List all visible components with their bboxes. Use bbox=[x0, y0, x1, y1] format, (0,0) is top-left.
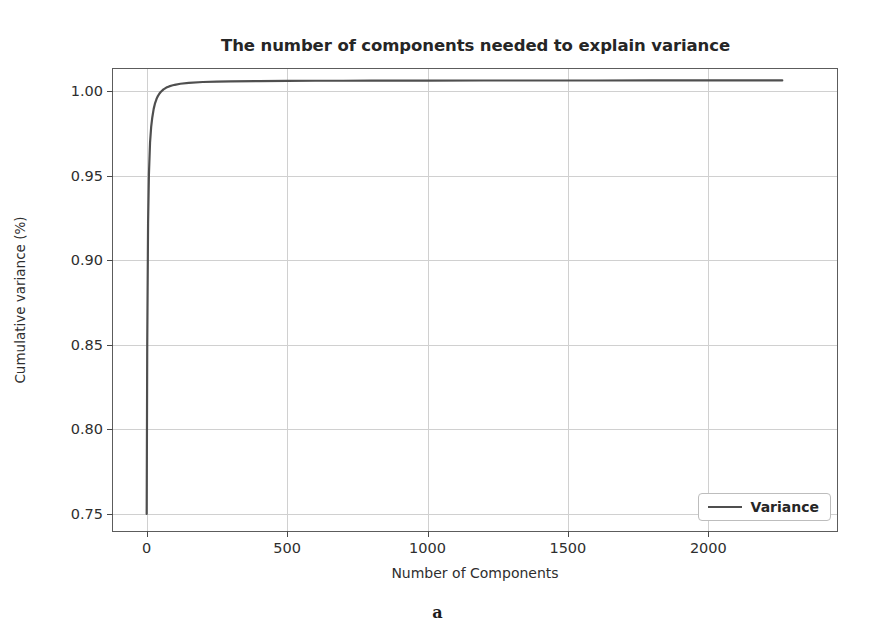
y-tick-label: 0.75 bbox=[71, 506, 103, 522]
y-axis-label: Cumulative variance (%) bbox=[12, 216, 28, 383]
figure-caption: a bbox=[0, 603, 875, 622]
legend-line-icon bbox=[708, 506, 742, 508]
x-tick-label: 1000 bbox=[409, 540, 446, 556]
y-tick-label: 0.90 bbox=[71, 252, 103, 268]
x-tick-label: 0 bbox=[142, 540, 151, 556]
figure-container: The number of components needed to expla… bbox=[0, 0, 875, 643]
legend-label: Variance bbox=[751, 499, 819, 515]
x-axis-label: Number of Components bbox=[112, 565, 838, 581]
x-tick-label: 500 bbox=[273, 540, 301, 556]
data-series-variance bbox=[113, 69, 837, 531]
plot-area: 1.00 0.95 0.90 0.85 0.80 0.75 0 5 bbox=[112, 68, 838, 532]
x-tick-label: 1500 bbox=[549, 540, 586, 556]
legend: Variance bbox=[698, 493, 831, 521]
y-tick-label: 1.00 bbox=[71, 83, 103, 99]
chart-title: The number of components needed to expla… bbox=[112, 36, 839, 55]
variance-line bbox=[147, 80, 783, 514]
y-tick-label: 0.80 bbox=[71, 421, 103, 437]
x-tick-label: 2000 bbox=[690, 540, 727, 556]
y-tick-label: 0.85 bbox=[71, 337, 103, 353]
y-tick-label: 0.95 bbox=[71, 168, 103, 184]
